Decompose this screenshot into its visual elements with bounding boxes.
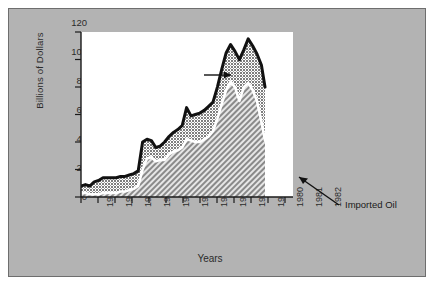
y-tick-marks bbox=[75, 32, 81, 197]
x-tick-marks bbox=[81, 197, 285, 203]
chart-plot-svg bbox=[9, 9, 427, 278]
arrow-imported-oil bbox=[299, 177, 339, 205]
chart-plate: Billions of Dollars 0 20 40 60 80 100 12… bbox=[8, 8, 426, 277]
chart-figure: Billions of Dollars 0 20 40 60 80 100 12… bbox=[9, 9, 425, 276]
chart-page: Billions of Dollars 0 20 40 60 80 100 12… bbox=[0, 0, 440, 293]
